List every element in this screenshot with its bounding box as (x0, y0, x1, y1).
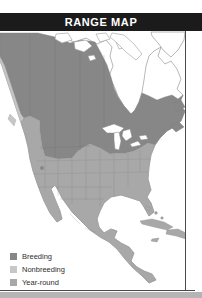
legend-label: Breeding (22, 253, 52, 260)
legend-item-breeding: Breeding (10, 253, 65, 260)
legend-item-yearround: Year-round (10, 279, 65, 286)
legend-item-nonbreeding: Nonbreeding (10, 266, 65, 273)
map-legend: Breeding Nonbreeding Year-round (10, 253, 65, 286)
legend-label: Nonbreeding (22, 266, 65, 273)
yearround-swatch-icon (10, 279, 17, 286)
legend-label: Year-round (22, 279, 59, 286)
range-map-header: RANGE MAP (0, 13, 202, 31)
breeding-swatch-icon (10, 253, 17, 260)
range-map-title: RANGE MAP (65, 13, 138, 31)
black-hills-patch (40, 166, 44, 170)
range-map-card: RANGE MAP Breeding Nonbreeding Year-roun… (0, 0, 202, 298)
nonbreeding-swatch-icon (10, 266, 17, 273)
footer-strip (0, 292, 202, 298)
